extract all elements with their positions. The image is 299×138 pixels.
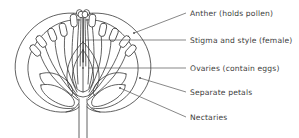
anther-right-5 bbox=[88, 14, 96, 28]
ovary-ovule-dot bbox=[82, 67, 84, 69]
stigma-right bbox=[82, 11, 88, 17]
anther-right-4 bbox=[98, 22, 107, 37]
anther-left-2 bbox=[35, 34, 48, 48]
label-nectaries: Nectaries bbox=[190, 113, 227, 122]
anther-left-5 bbox=[70, 14, 78, 28]
leader-separate-petals-endpoint bbox=[139, 77, 141, 79]
anther-left-4 bbox=[59, 22, 68, 37]
label-ovaries: Ovaries (contain eggs) bbox=[190, 64, 280, 73]
flower-diagram-figure: Anther (holds pollen) Stigma and style (… bbox=[0, 0, 299, 138]
label-anther: Anther (holds pollen) bbox=[190, 9, 273, 18]
filament-right-6 bbox=[87, 19, 89, 84]
label-separate-petals: Separate petals bbox=[190, 88, 252, 97]
style-right bbox=[85, 17, 86, 66]
leader-nectaries-endpoint bbox=[119, 87, 121, 89]
style-left bbox=[80, 17, 81, 66]
leader-anther-endpoint bbox=[133, 32, 135, 34]
label-stigma-style: Stigma and style (female) bbox=[190, 36, 292, 45]
leader-anther bbox=[134, 13, 186, 33]
leader-nectaries bbox=[120, 88, 186, 117]
anther-left-3 bbox=[47, 27, 58, 42]
anther-right-2 bbox=[118, 34, 131, 48]
filament-left-6 bbox=[77, 19, 79, 84]
